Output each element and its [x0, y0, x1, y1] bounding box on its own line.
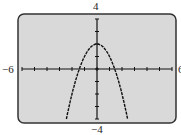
graph-screen	[0, 0, 181, 135]
